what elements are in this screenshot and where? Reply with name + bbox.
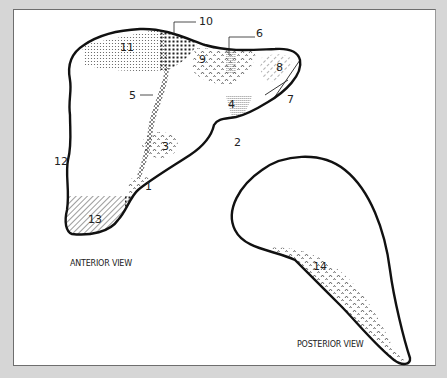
posterior-view: 14 POSTERIOR VIEW — [232, 157, 410, 364]
liver-diagram: 10 6 11 9 8 7 5 4 2 3 12 1 13 ANTERIOR V… — [0, 0, 447, 378]
region-6 — [226, 50, 236, 74]
label-1: 1 — [145, 180, 152, 193]
region-3 — [142, 132, 178, 158]
label-2: 2 — [234, 136, 241, 149]
label-4: 4 — [228, 98, 235, 111]
label-12: 12 — [54, 155, 68, 168]
label-6: 6 — [256, 27, 263, 40]
label-11: 11 — [120, 41, 134, 54]
label-8: 8 — [276, 61, 283, 74]
anterior-view: 10 6 11 9 8 7 5 4 2 3 12 1 13 ANTERIOR V… — [54, 15, 315, 268]
label-5: 5 — [129, 89, 136, 102]
anterior-regions — [60, 26, 315, 240]
anterior-view-caption: ANTERIOR VIEW — [70, 259, 132, 268]
region-5 — [137, 68, 169, 177]
label-10: 10 — [199, 15, 213, 28]
label-3: 3 — [162, 140, 169, 153]
label-9: 9 — [199, 53, 206, 66]
label-14: 14 — [313, 260, 327, 273]
posterior-view-caption: POSTERIOR VIEW — [297, 340, 364, 349]
leader-10 — [174, 22, 196, 34]
label-7: 7 — [287, 93, 294, 106]
label-13: 13 — [88, 213, 102, 226]
